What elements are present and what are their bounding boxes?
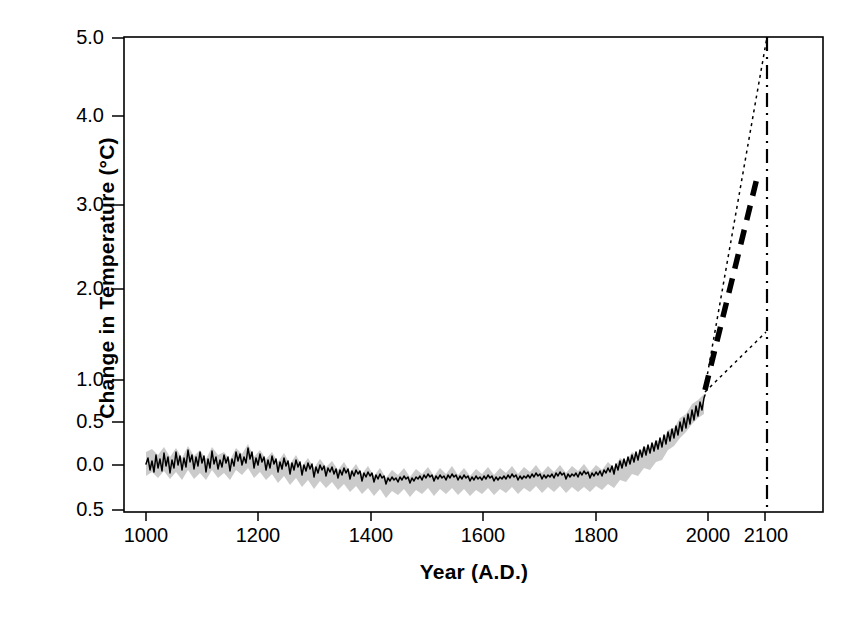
temperature-chart-figure: 5.0 4.0 3.0 2.0 1.0 0.5 0.0 0.5 1000 120…: [0, 0, 843, 618]
x-tick-label-1600: 1600: [438, 524, 528, 547]
x-axis-title: Year (A.D.): [124, 560, 824, 584]
plot-frame: [124, 37, 823, 512]
x-tick-label-2100: 2100: [721, 524, 811, 547]
x-axis-ticks: [146, 512, 765, 521]
y-tick-label-5: 5.0: [34, 26, 104, 49]
x-tick-label-1400: 1400: [326, 524, 416, 547]
y-tick-label-neg-0-5: 0.5: [34, 498, 104, 521]
y-tick-label-0: 0.0: [34, 453, 104, 476]
y-tick-label-4: 4.0: [34, 104, 104, 127]
y-tick-label-3: 3.0: [34, 193, 104, 216]
x-tick-label-1800: 1800: [551, 524, 641, 547]
y-axis-title: Change in Temperature (°C): [95, 68, 119, 488]
y-tick-label-1: 1.0: [34, 368, 104, 391]
x-tick-label-1000: 1000: [101, 524, 191, 547]
x-tick-label-1200: 1200: [213, 524, 303, 547]
y-tick-label-0-5: 0.5: [34, 410, 104, 433]
y-tick-label-2: 2.0: [34, 277, 104, 300]
